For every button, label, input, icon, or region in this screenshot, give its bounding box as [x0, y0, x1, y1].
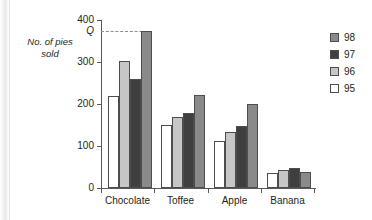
bar-group-toffee	[161, 20, 205, 188]
legend-swatch-96	[330, 67, 339, 76]
legend-item-98: 98	[330, 30, 370, 45]
legend-item-97: 97	[330, 47, 370, 62]
legend-label-98: 98	[344, 33, 355, 43]
plot-area	[101, 20, 314, 188]
bar-apple-97	[236, 126, 247, 188]
bar-apple-95	[214, 141, 225, 188]
x-tick-mark-1	[154, 189, 155, 193]
category-label-banana: Banana	[261, 195, 314, 207]
legend-swatch-95	[330, 84, 339, 93]
bar-banana-96	[278, 170, 289, 188]
legend-swatch-98	[330, 33, 339, 42]
y-tick-label-0: 0	[54, 183, 94, 193]
bar-apple-98	[247, 104, 258, 188]
category-label-apple: Apple	[208, 195, 261, 207]
y-tick-label-300: 300	[54, 57, 94, 67]
legend-label-97: 97	[344, 50, 355, 60]
bar-chocolate-95	[108, 96, 119, 188]
x-tick-mark-3	[261, 189, 262, 193]
y-axis-title-line-1: No. of pies	[14, 36, 86, 48]
x-tick-mark-end	[314, 189, 315, 193]
bar-group-apple	[214, 20, 258, 188]
legend: 98979695	[330, 30, 370, 98]
y-tick-label-200: 200	[54, 99, 94, 109]
bar-apple-96	[225, 132, 236, 188]
bar-group-banana	[267, 20, 311, 188]
bar-banana-97	[289, 168, 300, 188]
q-axis-label: Q	[54, 26, 94, 36]
bar-toffee-95	[161, 125, 172, 188]
legend-swatch-97	[330, 50, 339, 59]
bar-group-chocolate	[108, 20, 152, 188]
x-tick-mark-2	[208, 189, 209, 193]
legend-label-96: 96	[344, 67, 355, 77]
bar-toffee-97	[183, 113, 194, 188]
bar-banana-98	[300, 172, 311, 188]
bar-chocolate-98	[141, 31, 152, 189]
legend-item-95: 95	[330, 81, 370, 96]
y-tick-label-400: 400	[54, 15, 94, 25]
bar-toffee-98	[194, 95, 205, 188]
bar-chart-figure: No. of pies sold 0100200300400 Q Chocola…	[0, 0, 372, 220]
legend-label-95: 95	[344, 84, 355, 94]
bar-chocolate-96	[119, 61, 130, 188]
bar-chocolate-97	[130, 79, 141, 188]
y-tick-label-100: 100	[54, 141, 94, 151]
legend-item-96: 96	[330, 64, 370, 79]
bar-toffee-96	[172, 117, 183, 188]
x-tick-mark-0	[101, 189, 102, 193]
bar-banana-95	[267, 173, 278, 188]
category-label-toffee: Toffee	[154, 195, 207, 207]
category-label-chocolate: Chocolate	[101, 195, 154, 207]
